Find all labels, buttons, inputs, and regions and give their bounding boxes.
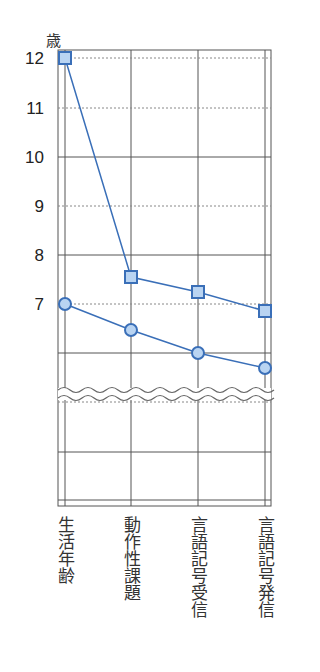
data-point xyxy=(125,324,137,336)
data-point xyxy=(259,305,271,317)
svg-text:11: 11 xyxy=(26,99,44,118)
data-point xyxy=(59,52,71,64)
y-axis-ticks: 12 11 10 9 8 7 xyxy=(25,49,44,314)
data-point xyxy=(259,362,271,374)
square-series xyxy=(59,52,271,317)
data-point xyxy=(192,286,204,298)
vertical-gridlines xyxy=(65,50,265,506)
data-point xyxy=(125,271,137,283)
svg-text:9: 9 xyxy=(35,197,44,216)
x-label-performance-task: 動作性課題 xyxy=(121,516,141,601)
svg-text:7: 7 xyxy=(35,295,44,314)
data-point xyxy=(59,298,71,310)
svg-text:12: 12 xyxy=(25,49,44,68)
horizontal-gridlines xyxy=(58,58,271,500)
data-point xyxy=(192,347,204,359)
x-label-verbal-expression: 言語記号発信 xyxy=(255,516,275,618)
axis-break-icon xyxy=(58,388,274,401)
circle-series xyxy=(59,298,271,374)
plot-frame xyxy=(58,50,271,506)
y-axis-unit: 歳 xyxy=(46,32,61,50)
x-label-verbal-reception: 言語記号受信 xyxy=(188,516,208,618)
svg-text:8: 8 xyxy=(35,246,44,265)
x-label-chronological-age: 生活年齢 xyxy=(55,516,75,584)
svg-text:10: 10 xyxy=(25,148,44,167)
